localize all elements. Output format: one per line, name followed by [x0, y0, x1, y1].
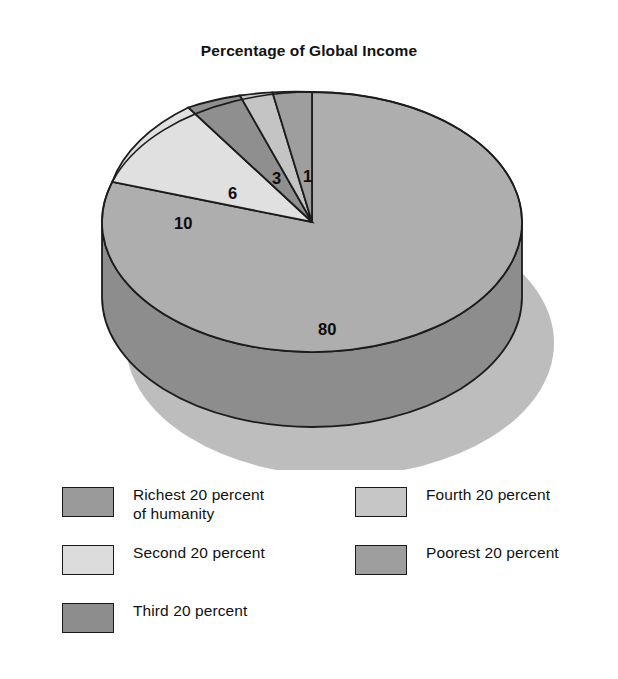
legend-label-richest: Richest 20 percent of humanity: [133, 486, 264, 524]
legend-label-second: Second 20 percent: [133, 544, 265, 563]
slice-value-richest: 80: [318, 321, 336, 338]
legend-item-fourth: Fourth 20 percent: [355, 486, 550, 517]
legend-swatch-poorest: [355, 545, 407, 575]
legend-swatch-richest: [62, 487, 114, 517]
slice-value-third: 6: [228, 185, 237, 202]
legend-swatch-third: [62, 603, 114, 633]
legend-swatch-fourth: [355, 487, 407, 517]
legend-label-fourth: Fourth 20 percent: [426, 486, 550, 505]
slice-value-second: 10: [174, 215, 192, 232]
slice-value-fourth: 3: [272, 170, 281, 187]
legend-item-third: Third 20 percent: [62, 602, 247, 633]
legend-item-poorest: Poorest 20 percent: [355, 544, 559, 575]
page-title: Percentage of Global Income: [0, 42, 618, 60]
legend-item-richest: Richest 20 percent of humanity: [62, 486, 264, 524]
legend-swatch-second: [62, 545, 114, 575]
chart-legend: Richest 20 percent of humanity Second 20…: [0, 478, 618, 668]
pie-chart-figure: 80 10 6 3 1: [0, 60, 618, 470]
legend-label-poorest: Poorest 20 percent: [426, 544, 559, 563]
slice-value-poorest: 1: [303, 168, 312, 185]
legend-item-second: Second 20 percent: [62, 544, 265, 575]
chart-page: Percentage of Global Income: [0, 0, 618, 679]
pie-chart-svg: [0, 60, 618, 470]
legend-label-third: Third 20 percent: [133, 602, 247, 621]
